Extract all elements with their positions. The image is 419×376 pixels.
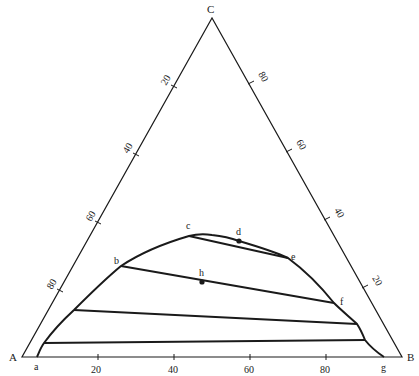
left-tick-20: 20 xyxy=(158,73,173,87)
right-tick-60: 60 xyxy=(294,138,309,152)
tie-lines xyxy=(44,236,365,343)
left-tick-80: 80 xyxy=(44,277,59,291)
point-label-g: g xyxy=(381,362,386,373)
binodal-curve xyxy=(37,234,384,357)
bottom-tick-40: 40 xyxy=(168,364,178,375)
right-tick-80: 80 xyxy=(256,70,271,84)
bottom-tick-20: 20 xyxy=(91,364,101,375)
right-tick-40: 40 xyxy=(332,206,347,220)
tie-line-b-f xyxy=(121,266,334,303)
vertex-label-a: A xyxy=(9,351,17,363)
tie-line-lower-1 xyxy=(74,310,357,324)
point-label-b: b xyxy=(114,255,119,266)
point-d-marker xyxy=(236,238,241,243)
point-label-c: c xyxy=(186,220,191,231)
point-h-marker xyxy=(199,279,204,284)
bottom-tick-60: 60 xyxy=(244,364,254,375)
right-axis-ticks xyxy=(248,81,368,288)
ternary-diagram: A B C 20 40 60 80 20 40 60 80 20 40 60 8… xyxy=(0,0,419,376)
point-label-h: h xyxy=(199,267,204,278)
bottom-tick-80: 80 xyxy=(320,364,330,375)
vertex-label-c: C xyxy=(207,3,214,15)
left-tick-40: 40 xyxy=(120,141,135,155)
point-label-d: d xyxy=(236,226,241,237)
point-label-e: e xyxy=(291,251,296,262)
right-tick-20: 20 xyxy=(370,274,385,288)
vertex-label-b: B xyxy=(407,351,414,363)
point-label-a: a xyxy=(34,361,39,372)
tie-line-lower-2 xyxy=(44,340,365,343)
point-label-f: f xyxy=(340,296,344,307)
